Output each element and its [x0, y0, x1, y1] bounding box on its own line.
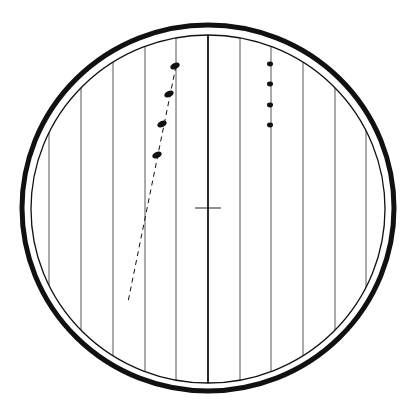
round-dot: [267, 82, 273, 87]
field-of-view-diagram: [0, 0, 417, 408]
elongated-dot: [163, 89, 175, 99]
round-dot: [267, 62, 273, 67]
round-dot: [267, 103, 273, 108]
elongated-dot: [156, 119, 168, 129]
round-dot: [267, 123, 273, 128]
dashed-trajectory-line: [128, 66, 176, 302]
right-dot-series: [267, 62, 273, 128]
